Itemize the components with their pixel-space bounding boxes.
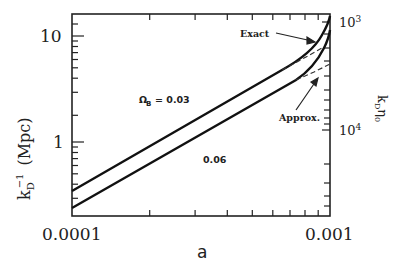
y-tick-label-10: 10 bbox=[40, 26, 62, 46]
x-tick-label-0.001: 0.001 bbox=[305, 224, 354, 244]
svg-text:kD−1(Mpc): kD−1(Mpc) bbox=[14, 117, 36, 200]
annotation-arrows bbox=[276, 33, 318, 110]
y-tick-label-1: 1 bbox=[53, 132, 64, 152]
annotation-approx: Approx. bbox=[278, 112, 320, 123]
y-ticks-left bbox=[72, 24, 84, 198]
annotation-exact: Exact bbox=[240, 28, 270, 39]
right-tick-label-1e3: 103 bbox=[339, 14, 362, 30]
right-tick-label-1e4: 104 bbox=[339, 122, 362, 138]
x-tick-label-0.0001: 0.0001 bbox=[42, 224, 101, 244]
y-axis-title-left: kD−1(Mpc) bbox=[14, 117, 36, 200]
annotation-omega-value: = 0.03 bbox=[155, 94, 190, 105]
x-axis-title: a bbox=[197, 242, 207, 262]
x-ticks-bottom bbox=[150, 210, 319, 216]
annotation-0.06: 0.06 bbox=[203, 154, 227, 165]
x-ticks-top bbox=[150, 14, 319, 20]
annotation-omega-sub: B bbox=[146, 100, 151, 108]
curve-omega-0.03-exact bbox=[72, 16, 330, 191]
chart: Exact Approx. Ω B = 0.03 0.06 10 1 0.000… bbox=[0, 0, 399, 272]
y-axis-title-right: kDη0 bbox=[373, 95, 390, 122]
svg-text:kDη0: kDη0 bbox=[373, 95, 390, 122]
